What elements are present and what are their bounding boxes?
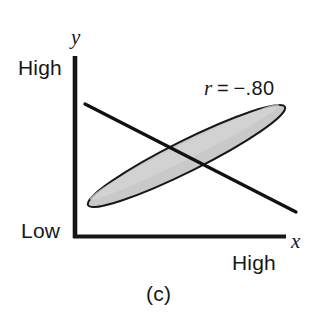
x-axis-high-label: High (232, 252, 276, 273)
x-axis-name-label: x (291, 231, 300, 252)
y-axis-high-label: High (18, 57, 62, 78)
correlation-value: −.80 (233, 77, 274, 99)
y-axis-name-label: y (71, 27, 80, 48)
panel-caption: (c) (146, 283, 171, 304)
correlation-symbol: r (204, 76, 213, 100)
correlation-figure-panel: High Low High y x r = −.80 (c) (0, 0, 318, 331)
correlation-annotation: r = −.80 (204, 78, 275, 99)
y-axis-low-label: Low (21, 220, 60, 241)
correlation-equals: = (213, 77, 234, 99)
